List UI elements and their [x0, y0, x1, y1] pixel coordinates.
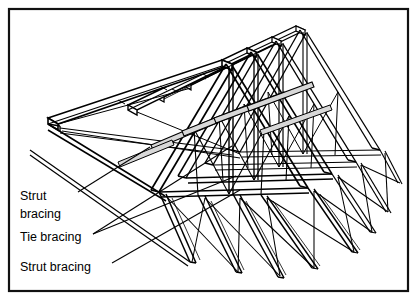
- truss-diagram-svg: Strut bracing Tie bracing Strut bracing: [0, 0, 417, 307]
- truss-bracing-figure: Strut bracing Tie bracing Strut bracing: [0, 0, 417, 307]
- label-strut-upper-line-1: Strut: [20, 189, 47, 203]
- label-strut-lower-line-1: Strut bracing: [20, 260, 91, 274]
- label-tie-line-1: Tie bracing: [20, 230, 81, 244]
- label-tie-bracing: Tie bracing: [20, 230, 81, 244]
- label-strut-upper-line-2: bracing: [20, 207, 61, 221]
- label-strut-bracing-lower: Strut bracing: [20, 260, 91, 274]
